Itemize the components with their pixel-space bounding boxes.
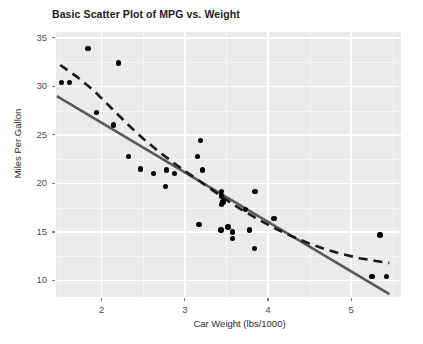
y-axis-tick-mark [52,37,55,38]
data-point [369,274,374,279]
data-point [85,46,90,51]
y-axis-tick-mark [52,134,55,135]
data-point [196,222,201,227]
y-axis-tick-mark [52,86,55,87]
data-point [252,189,257,194]
x-axis-title: Car Weight (lbs/1000) [28,318,423,329]
data-point [230,229,235,234]
y-axis-tick-label: 10 [36,274,47,285]
x-axis-tick-label: 2 [99,304,104,315]
plot-panel [56,32,401,297]
y-axis-tick-label: 25 [36,129,47,140]
y-axis-title: Miles Per Gallon [12,69,23,219]
x-axis-tick-mark [184,298,185,301]
data-point [219,193,224,198]
y-axis-tick-label: 30 [36,80,47,91]
y-axis-tick-mark [52,183,55,184]
data-point [219,189,224,194]
data-point [116,60,121,65]
data-point [111,122,116,127]
y-axis-tick-label: 15 [36,226,47,237]
data-point [377,232,382,237]
y-axis-tick-label: 35 [36,32,47,43]
x-axis-tick-label: 5 [348,304,353,315]
x-axis-tick-mark [267,298,268,301]
data-point [218,227,223,232]
x-axis-tick-label: 3 [182,304,187,315]
scatter-plot-figure: Basic Scatter Plot of MPG vs. Weight 101… [0,0,423,344]
data-point [164,167,169,172]
data-point [59,80,64,85]
loess-smooth-line [60,65,389,263]
y-axis-tick-mark [52,280,55,281]
data-point [126,154,131,159]
data-point [200,167,205,172]
y-axis-tick-label: 20 [36,177,47,188]
x-axis-tick-mark [101,298,102,301]
data-point [195,154,200,159]
data-point [271,216,276,221]
data-point [138,166,143,171]
x-axis-tick-mark [351,298,352,301]
trend-lines-layer [56,32,401,297]
y-axis-tick-mark [52,231,55,232]
page-title: Basic Scatter Plot of MPG vs. Weight [52,8,240,20]
x-axis-tick-label: 4 [265,304,270,315]
